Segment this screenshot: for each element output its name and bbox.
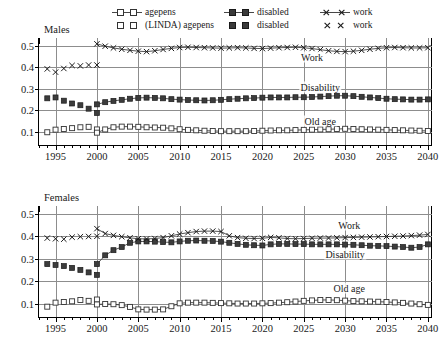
x-tick-minor — [370, 145, 371, 148]
x-tick-major — [386, 145, 387, 150]
open-square-icon — [112, 21, 142, 30]
x-axis-label: 1995 — [45, 323, 66, 334]
x-tick-minor — [411, 145, 412, 148]
x-tick-minor — [279, 317, 280, 320]
x-tick-minor — [271, 145, 272, 148]
annotation-old-age: Old age — [304, 116, 337, 127]
x-tick-minor — [271, 317, 272, 320]
filled-square-line-icon — [224, 8, 254, 17]
x-tick-minor — [287, 317, 288, 320]
figure-root: agepens disabled — [0, 0, 440, 354]
y-axis-label: 0.5 — [2, 40, 34, 51]
x-tick-minor — [64, 317, 65, 320]
legend-entry-disabled: disabled — [224, 6, 320, 19]
annotation-work: Work — [337, 219, 361, 230]
x-tick-minor — [312, 145, 313, 148]
legend-label: agepens — [145, 6, 176, 19]
x-axis-label: 2010 — [169, 323, 190, 334]
x-tick-minor — [80, 317, 81, 320]
x-tick-minor — [312, 317, 313, 320]
cross-icon — [320, 21, 350, 30]
x-axis-label: 2040 — [417, 151, 438, 162]
x-tick-major — [428, 145, 429, 150]
x-tick-minor — [320, 145, 321, 148]
x-axis-label: 2005 — [128, 151, 149, 162]
plot-area-females: 0.10.20.30.40.51995200020052010201520202… — [38, 206, 432, 318]
x-axis-label: 2000 — [86, 151, 107, 162]
x-tick-major — [180, 145, 181, 150]
x-tick-minor — [105, 317, 106, 320]
x-tick-minor — [204, 317, 205, 320]
panel-females: Females 0.10.20.30.40.519952000200520102… — [0, 192, 440, 354]
x-tick-minor — [105, 145, 106, 148]
annotation-disability: Disability — [300, 81, 341, 92]
legend-label: disabled — [257, 6, 289, 19]
x-tick-minor — [353, 317, 354, 320]
x-tick-major — [262, 145, 263, 150]
x-tick-minor — [130, 145, 131, 148]
x-tick-minor — [254, 145, 255, 148]
x-tick-minor — [122, 145, 123, 148]
x-tick-minor — [254, 317, 255, 320]
x-tick-major — [56, 145, 57, 150]
x-tick-minor — [246, 317, 247, 320]
series-disabled — [94, 238, 430, 267]
x-tick-minor — [204, 145, 205, 148]
x-tick-minor — [337, 317, 338, 320]
cross-line-icon — [320, 8, 350, 17]
y-axis-label: 0.1 — [2, 298, 34, 309]
x-tick-minor — [229, 145, 230, 148]
series--linda-work — [45, 234, 100, 242]
x-tick-minor — [89, 145, 90, 148]
y-axis-label: 0.4 — [2, 231, 34, 242]
x-tick-minor — [188, 145, 189, 148]
x-axis-label: 2005 — [128, 323, 149, 334]
series--linda-disabled — [45, 95, 100, 116]
x-tick-major — [386, 317, 387, 322]
x-axis-label: 2000 — [86, 323, 107, 334]
series-work — [94, 226, 430, 242]
x-tick-minor — [155, 145, 156, 148]
x-tick-minor — [403, 145, 404, 148]
y-axis-label: 0.3 — [2, 83, 34, 94]
x-tick-minor — [130, 317, 131, 320]
x-tick-minor — [163, 317, 164, 320]
x-tick-minor — [295, 145, 296, 148]
x-axis-label: 2025 — [293, 323, 314, 334]
x-axis-label: 2030 — [335, 323, 356, 334]
filled-square-icon — [224, 21, 254, 30]
legend-entry-work: work — [320, 6, 373, 19]
x-tick-major — [221, 317, 222, 322]
legend-label: work — [353, 6, 373, 19]
y-axis-label: 0.1 — [2, 127, 34, 138]
x-tick-minor — [229, 317, 230, 320]
series--linda-work — [45, 62, 100, 75]
panel-title-females: Females — [44, 192, 79, 203]
x-axis-label: 2035 — [376, 151, 397, 162]
x-axis-label: 2020 — [252, 151, 273, 162]
y-axis-label: 0.5 — [2, 208, 34, 219]
series--linda-agepens — [45, 297, 100, 309]
x-tick-minor — [171, 145, 172, 148]
x-tick-minor — [295, 317, 296, 320]
x-tick-minor — [80, 145, 81, 148]
x-tick-major — [262, 317, 263, 322]
x-tick-minor — [188, 317, 189, 320]
x-tick-major — [97, 317, 98, 322]
x-tick-major — [345, 317, 346, 322]
x-tick-minor — [122, 317, 123, 320]
x-tick-major — [221, 145, 222, 150]
x-tick-major — [304, 145, 305, 150]
x-tick-minor — [378, 145, 379, 148]
x-tick-minor — [362, 145, 363, 148]
x-tick-minor — [163, 145, 164, 148]
x-tick-minor — [320, 317, 321, 320]
x-tick-minor — [213, 317, 214, 320]
x-tick-minor — [279, 145, 280, 148]
y-axis-label: 0.4 — [2, 62, 34, 73]
x-axis-label: 2015 — [211, 151, 232, 162]
x-tick-minor — [72, 145, 73, 148]
x-axis-label: 1995 — [45, 151, 66, 162]
x-tick-minor — [246, 145, 247, 148]
x-tick-minor — [171, 317, 172, 320]
